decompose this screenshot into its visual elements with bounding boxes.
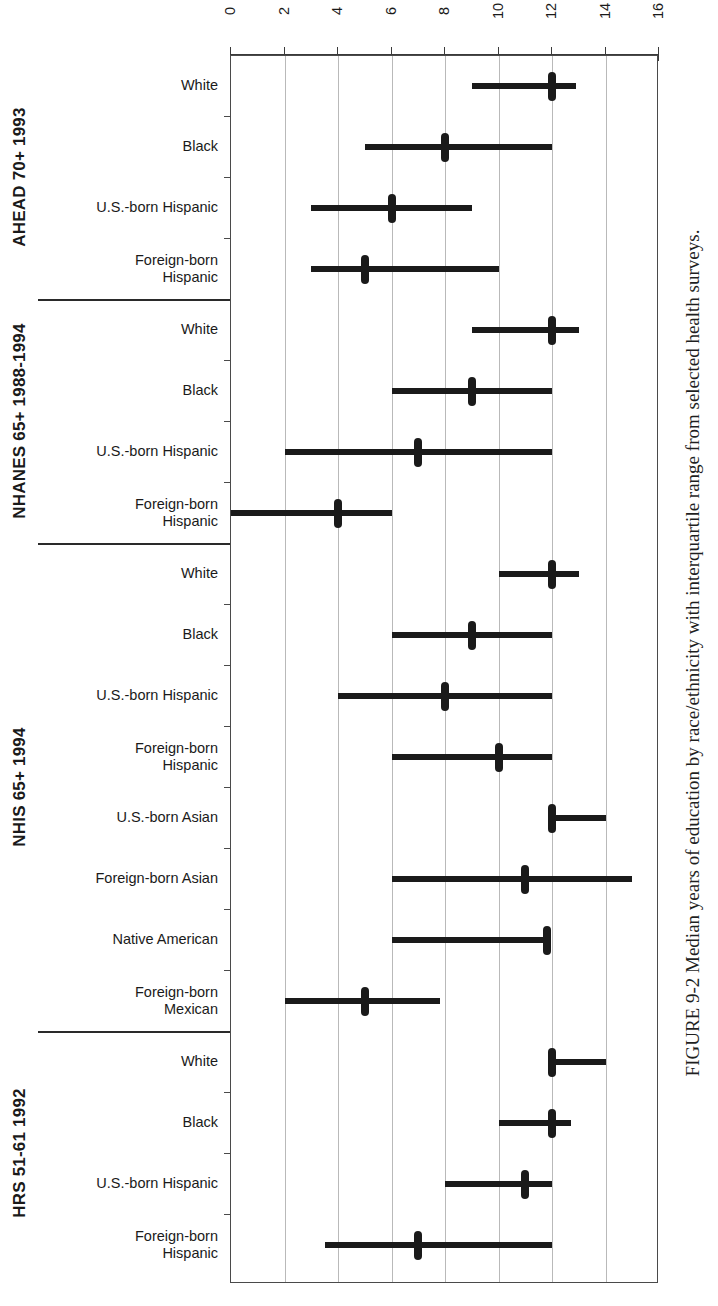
median-marker [548,72,556,101]
data-row [231,1154,657,1215]
category-label-line: Black [18,1114,218,1131]
category-label-line: Hispanic [18,1245,218,1262]
data-row [231,910,657,971]
x-axis: 0246810121416 [0,0,718,56]
median-marker [548,316,556,345]
interquartile-range-bar [499,571,579,577]
category-label-line: U.S.-born Hispanic [18,1175,218,1192]
data-row [231,300,657,361]
figure-caption-text: FIGURE 9-2 Median years of education by … [682,230,704,1077]
interquartile-range-bar [499,1120,571,1126]
median-marker [521,865,529,894]
category-label-line: White [18,321,218,338]
axis-tick-label: 10 [491,0,505,31]
category-label: White [18,565,218,582]
category-label: Foreign-bornHispanic [18,740,218,774]
category-label: Black [18,382,218,399]
category-label-line: Hispanic [18,513,218,530]
interquartile-range-bar [445,1181,552,1187]
axis-tick-label: 16 [651,0,665,31]
median-marker [548,1109,556,1138]
data-row [231,666,657,727]
interquartile-range-bar [231,510,392,516]
category-label-line: Black [18,626,218,643]
axis-tick-label: 8 [437,0,451,31]
category-label-line: Foreign-born [18,496,218,513]
category-label: Foreign-bornHispanic [18,496,218,530]
median-marker [548,804,556,833]
interquartile-range-bar [392,876,633,882]
category-label: U.S.-born Asian [18,809,218,826]
median-marker [414,438,422,467]
group-separator [38,299,230,301]
axis-tick-label: 6 [384,0,398,31]
median-marker [361,987,369,1016]
category-label: Foreign-bornHispanic [18,1228,218,1262]
category-label-line: Black [18,382,218,399]
category-label-line: U.S.-born Asian [18,809,218,826]
category-label: U.S.-born Hispanic [18,199,218,216]
category-label-line: Mexican [18,1001,218,1018]
axis-tick-label: 14 [598,0,612,31]
category-label-line: White [18,1053,218,1070]
category-label: Black [18,626,218,643]
interquartile-range-bar [392,937,547,943]
category-label: U.S.-born Hispanic [18,443,218,460]
interquartile-range-bar [311,266,498,272]
category-label-line: Foreign-born [18,252,218,269]
figure-9-2: 0246810121416 AHEAD 70+ 1993NHANES 65+ 1… [0,0,718,1306]
data-row [231,117,657,178]
axis-tick-label: 4 [330,0,344,31]
figure-caption: FIGURE 9-2 Median years of education by … [668,0,718,1306]
interquartile-range-bar [392,754,553,760]
interquartile-range-bar [472,327,579,333]
category-label-line: Hispanic [18,269,218,286]
category-label: Foreign-bornMexican [18,984,218,1018]
median-marker [548,1048,556,1077]
interquartile-range-bar [552,815,606,821]
median-marker [441,133,449,162]
data-row [231,788,657,849]
category-label-line: Foreign-born Asian [18,870,218,887]
data-row [231,56,657,117]
median-marker [521,1170,529,1199]
category-label: U.S.-born Hispanic [18,1175,218,1192]
category-label-line: U.S.-born Hispanic [18,687,218,704]
median-marker [548,560,556,589]
axis-tick-label: 2 [277,0,291,31]
category-label-column: WhiteBlackU.S.-born HispanicForeign-born… [0,55,230,1283]
data-row [231,361,657,422]
median-marker [441,682,449,711]
category-label-line: Native American [18,931,218,948]
plot-area [230,55,658,1283]
data-row [231,422,657,483]
category-label-line: White [18,565,218,582]
category-label-line: U.S.-born Hispanic [18,199,218,216]
data-row [231,178,657,239]
category-label-line: Foreign-born [18,740,218,757]
median-marker [495,743,503,772]
category-label-line: White [18,77,218,94]
interquartile-range-bar [325,1242,552,1248]
category-label: Native American [18,931,218,948]
category-label: Black [18,138,218,155]
median-marker [388,194,396,223]
data-row [231,605,657,666]
data-row [231,971,657,1032]
data-row [231,1093,657,1154]
axis-tick-mark [658,47,659,61]
data-row [231,849,657,910]
axis-tick-label: 12 [544,0,558,31]
axis-tick-label: 0 [223,0,237,31]
median-marker [361,255,369,284]
category-label-line: Hispanic [18,757,218,774]
interquartile-range-bar [365,144,552,150]
median-marker [468,621,476,650]
data-row [231,1215,657,1276]
median-marker [543,926,551,955]
category-label-line: U.S.-born Hispanic [18,443,218,460]
category-label: White [18,321,218,338]
category-label: U.S.-born Hispanic [18,687,218,704]
data-row [231,727,657,788]
data-row [231,1032,657,1093]
